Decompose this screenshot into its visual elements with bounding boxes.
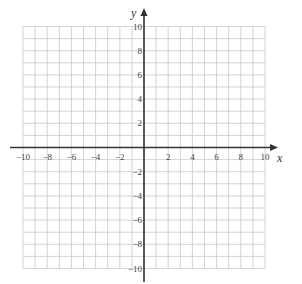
y-tick-label: −4 — [132, 191, 142, 201]
x-tick-label: −2 — [115, 152, 125, 162]
coordinate-plane: −10−8−6−4−2246810108642−2−4−6−8−10 x y — [0, 0, 302, 284]
y-tick-label: −6 — [132, 215, 142, 225]
x-tick-label: 8 — [239, 152, 244, 162]
x-tick-label: 2 — [166, 152, 171, 162]
y-tick-label: 4 — [138, 94, 143, 104]
x-tick-label: −4 — [91, 152, 101, 162]
x-tick-label: −10 — [16, 152, 31, 162]
y-tick-label: 6 — [138, 70, 143, 80]
y-tick-label: −2 — [132, 167, 142, 177]
y-tick-label: −10 — [128, 264, 143, 274]
y-tick-label: 10 — [133, 22, 143, 32]
y-axis-label: y — [130, 6, 137, 20]
x-tick-label: −6 — [67, 152, 77, 162]
x-axis-label: x — [276, 151, 283, 165]
x-tick-label: 10 — [261, 152, 271, 162]
y-axis-arrow-icon — [141, 8, 148, 16]
y-tick-label: −8 — [132, 239, 142, 249]
y-tick-label: 2 — [138, 118, 143, 128]
x-tick-label: 6 — [214, 152, 219, 162]
x-tick-label: 4 — [190, 152, 195, 162]
y-tick-label: 8 — [138, 46, 143, 56]
axes — [10, 8, 278, 282]
x-tick-label: −8 — [42, 152, 52, 162]
